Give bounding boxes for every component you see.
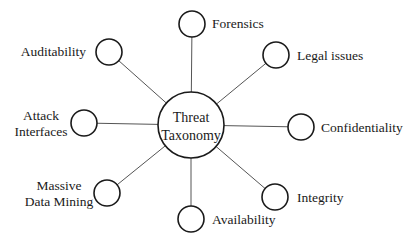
node-label-attack-interfaces-line-2: Interfaces xyxy=(14,124,67,139)
node-label-massive-data-mining-line-2: Data Mining xyxy=(25,194,94,209)
node-massive-data-mining: MassiveData Mining xyxy=(25,178,120,209)
node-circle-legal-issues xyxy=(263,42,289,68)
node-confidentiality: Confidentiality xyxy=(288,114,403,140)
node-circle-availability xyxy=(178,206,204,232)
node-label-massive-data-mining-line-1: Massive xyxy=(37,178,82,193)
node-circle-attack-interfaces xyxy=(71,110,97,136)
center-circle xyxy=(158,92,224,158)
node-auditability: Auditability xyxy=(21,39,122,65)
center-label-line-2: Taxonomy xyxy=(161,128,221,143)
center-label-line-1: Threat xyxy=(173,110,210,125)
node-circle-confidentiality xyxy=(288,114,314,140)
node-availability: Availability xyxy=(178,206,276,232)
node-label-attack-interfaces-line-1: Attack xyxy=(23,108,59,123)
node-circle-auditability xyxy=(96,39,122,65)
center-node-threat-taxonomy: Threat Taxonomy xyxy=(158,92,224,158)
node-circle-massive-data-mining xyxy=(94,180,120,206)
threat-taxonomy-diagram: Threat Taxonomy ForensicsLegal issuesCon… xyxy=(0,0,419,249)
node-label-forensics: Forensics xyxy=(212,16,264,31)
node-label-integrity: Integrity xyxy=(297,190,344,205)
node-label-availability: Availability xyxy=(212,212,276,227)
node-label-legal-issues: Legal issues xyxy=(297,48,363,63)
node-label-auditability: Auditability xyxy=(21,44,86,59)
node-forensics: Forensics xyxy=(179,11,264,37)
node-label-confidentiality: Confidentiality xyxy=(321,120,403,135)
node-circle-integrity xyxy=(262,184,288,210)
node-attack-interfaces: AttackInterfaces xyxy=(14,108,97,139)
node-legal-issues: Legal issues xyxy=(263,42,363,68)
node-integrity: Integrity xyxy=(262,184,344,210)
node-circle-forensics xyxy=(179,11,205,37)
